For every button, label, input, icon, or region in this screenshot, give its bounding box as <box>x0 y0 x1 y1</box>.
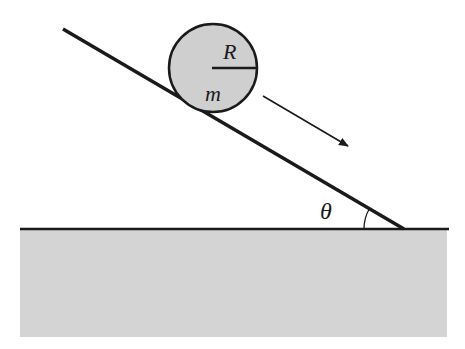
angle-arc <box>364 209 370 230</box>
angle-label: θ <box>320 198 332 224</box>
motion-arrow <box>263 96 348 146</box>
mass-label: m <box>205 81 221 106</box>
diagram-canvas: θ R m <box>0 0 465 349</box>
ground <box>20 229 447 337</box>
incline-diagram: θ R m <box>0 0 465 349</box>
radius-label: R <box>222 39 237 64</box>
